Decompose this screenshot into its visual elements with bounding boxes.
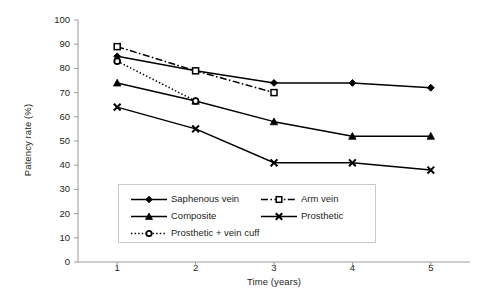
marker-filled-diamond [427, 84, 434, 91]
marker-filled-diamond [271, 80, 278, 87]
marker-open-square [193, 68, 199, 74]
marker-filled-diamond [349, 80, 356, 87]
legend-label: Arm vein [301, 193, 338, 204]
chart-legend: Saphenous veinCompositeProsthetic + vein… [118, 184, 376, 243]
marker-filled-diamond [146, 196, 152, 202]
plot-area [0, 0, 484, 297]
legend-key [129, 228, 169, 239]
series-prosthetic-vein-cuff [114, 58, 198, 104]
chart-figure: Patency rate (%) Time (years) 0102030405… [0, 0, 484, 297]
series-saphenous-vein [114, 53, 434, 91]
legend-key [129, 211, 169, 222]
marker-open-square [114, 44, 120, 50]
legend-key [129, 194, 169, 205]
series-line [117, 107, 431, 170]
legend-key [259, 194, 299, 205]
marker-filled-triangle [114, 79, 121, 86]
marker-open-circle [193, 98, 199, 104]
marker-open-circle [114, 58, 120, 64]
marker-open-square [276, 197, 282, 203]
marker-open-circle [146, 231, 151, 236]
legend-key [259, 211, 299, 222]
legend-label: Composite [171, 210, 216, 221]
series-prosthetic [114, 104, 434, 174]
legend-label: Prosthetic [301, 210, 343, 221]
legend-label: Saphenous vein [171, 193, 239, 204]
marker-open-square [271, 90, 277, 96]
series-composite [114, 79, 435, 139]
legend-label: Prosthetic + vein cuff [171, 227, 259, 238]
